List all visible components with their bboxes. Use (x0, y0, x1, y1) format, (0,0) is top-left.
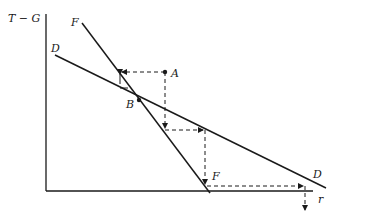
curve-f-label-top: F (70, 16, 79, 29)
y-axis-label: T − G (8, 12, 41, 25)
curve-d-label-top: D (50, 42, 60, 55)
point-b-label: B (125, 98, 134, 111)
point-a-label: A (170, 67, 179, 80)
curve-f (82, 23, 210, 193)
curve-d-label-bottom: D (312, 168, 322, 181)
point-a (163, 70, 167, 74)
x-axis-label: r (318, 193, 324, 206)
adjustment-diagram: T − G r F F D D A B (0, 0, 377, 224)
adjustment-path (120, 72, 305, 210)
curve-f-label-bottom: F (211, 170, 220, 183)
point-b (137, 98, 141, 102)
